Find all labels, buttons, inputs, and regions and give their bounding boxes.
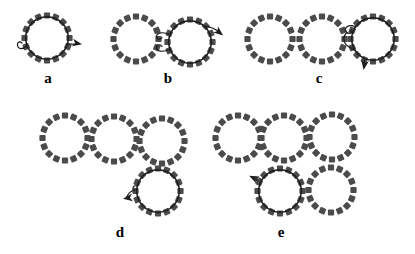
bead [110, 36, 116, 42]
bead [21, 35, 27, 41]
bead [277, 165, 283, 171]
bead [370, 13, 376, 19]
bead [155, 165, 161, 171]
bead [319, 13, 325, 19]
bead [347, 36, 353, 42]
bead [177, 188, 183, 194]
bead [209, 39, 215, 45]
bead [88, 136, 94, 142]
figure-canvas: abcde [0, 0, 415, 254]
bead [181, 138, 187, 144]
bead [111, 158, 117, 164]
bead [212, 135, 218, 141]
bead [296, 36, 302, 42]
bead [39, 135, 45, 141]
bead [133, 58, 139, 64]
bead [254, 188, 260, 194]
panel-label-c: c [316, 70, 323, 86]
bead [164, 39, 170, 45]
bead [329, 156, 335, 162]
bead [62, 157, 68, 163]
bead [44, 57, 50, 63]
bead [281, 112, 287, 118]
bead [187, 61, 193, 67]
bead [258, 135, 264, 141]
panel-label-a: a [44, 70, 52, 86]
bead [370, 58, 376, 64]
bead [267, 58, 273, 64]
panel-label-d: d [116, 224, 125, 240]
bead [62, 112, 68, 118]
bead [281, 157, 287, 163]
bead [277, 210, 283, 216]
panel-label-b: b [164, 70, 172, 86]
bead [299, 188, 305, 194]
bead [328, 164, 334, 170]
bead [350, 187, 356, 193]
bead [136, 138, 142, 144]
bead [111, 113, 117, 119]
bead [235, 112, 241, 118]
bead [155, 210, 161, 216]
bead [159, 115, 165, 121]
bead [133, 13, 139, 19]
bead [328, 209, 334, 215]
bead [187, 16, 193, 22]
bead [289, 36, 295, 42]
bead [305, 187, 311, 193]
bead [329, 111, 335, 117]
bead [392, 36, 398, 42]
panel-label-e: e [278, 224, 285, 240]
bead [351, 134, 357, 140]
bead [44, 12, 50, 18]
bead [319, 58, 325, 64]
bead-circle-diagram: abcde [0, 0, 415, 254]
bead [235, 157, 241, 163]
bead [66, 35, 72, 41]
bead [306, 134, 312, 140]
bead [244, 36, 250, 42]
bead [267, 13, 273, 19]
